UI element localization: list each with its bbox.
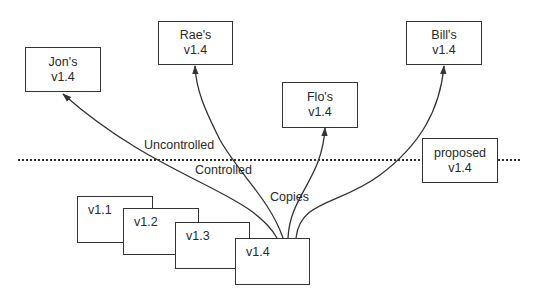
copy-version-label: v1.4 xyxy=(51,70,75,85)
copy-box-flo: Flo's v1.4 xyxy=(282,82,358,128)
version-box-v1-4: v1.4 xyxy=(235,238,310,285)
copy-version-label: v1.4 xyxy=(432,43,456,58)
copy-box-jon: Jon's v1.4 xyxy=(25,47,101,92)
copy-owner-label: Bill's xyxy=(431,28,456,43)
copy-owner-label: Flo's xyxy=(307,90,333,105)
copy-box-bill: Bill's v1.4 xyxy=(406,21,482,65)
proposed-label: proposed xyxy=(434,146,486,161)
arrow-to-flo xyxy=(288,128,325,238)
version-label: v1.4 xyxy=(246,245,270,259)
version-label: v1.2 xyxy=(134,215,158,229)
uncontrolled-label: Uncontrolled xyxy=(144,138,214,152)
copies-label: Copies xyxy=(270,190,309,204)
copy-version-label: v1.4 xyxy=(184,43,208,58)
controlled-label: Controlled xyxy=(195,163,252,177)
proposed-version-label: v1.4 xyxy=(448,161,472,176)
version-label: v1.3 xyxy=(186,229,210,243)
copy-owner-label: Rae's xyxy=(180,28,212,43)
arrow-to-rae xyxy=(195,66,283,238)
copy-owner-label: Jon's xyxy=(49,55,78,70)
version-label: v1.1 xyxy=(88,203,112,217)
copy-version-label: v1.4 xyxy=(308,105,332,120)
copy-box-rae: Rae's v1.4 xyxy=(158,21,233,65)
proposed-box: proposed v1.4 xyxy=(422,138,498,183)
